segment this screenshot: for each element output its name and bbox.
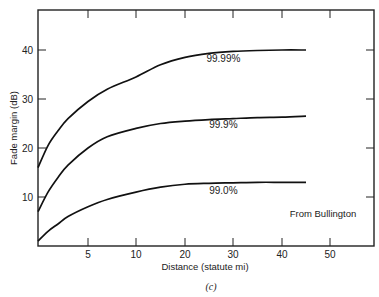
curve-99.0% — [38, 182, 306, 241]
x-tick-label: 50 — [324, 249, 336, 260]
fade-margin-chart: 1020304051020304050 99.99%99.9%99.0% Dis… — [0, 0, 379, 297]
x-axis-label: Distance (statute mi) — [161, 261, 248, 272]
x-tick-label: 20 — [179, 249, 191, 260]
y-tick-label: 20 — [22, 143, 34, 154]
x-tick-label: 40 — [276, 249, 288, 260]
series-label: 99.99% — [206, 53, 240, 64]
curve-99.9% — [38, 116, 306, 212]
series-labels: 99.99%99.9%99.0% — [206, 53, 240, 196]
figure-caption: (c) — [205, 281, 217, 293]
x-tick-label: 10 — [130, 249, 142, 260]
series-label: 99.0% — [209, 185, 237, 196]
y-tick-label: 40 — [22, 45, 34, 56]
source-annotation: From Bullington — [290, 208, 357, 219]
series-label: 99.9% — [209, 119, 237, 130]
x-tick-label: 30 — [227, 249, 239, 260]
curve-99.99% — [38, 50, 306, 168]
y-tick-label: 10 — [22, 192, 34, 203]
data-curves — [38, 50, 306, 241]
x-tick-label: 5 — [85, 249, 91, 260]
axis-ticks: 1020304051020304050 — [22, 10, 374, 260]
y-tick-label: 30 — [22, 94, 34, 105]
y-axis-label: Fade margin (dB) — [8, 91, 19, 165]
